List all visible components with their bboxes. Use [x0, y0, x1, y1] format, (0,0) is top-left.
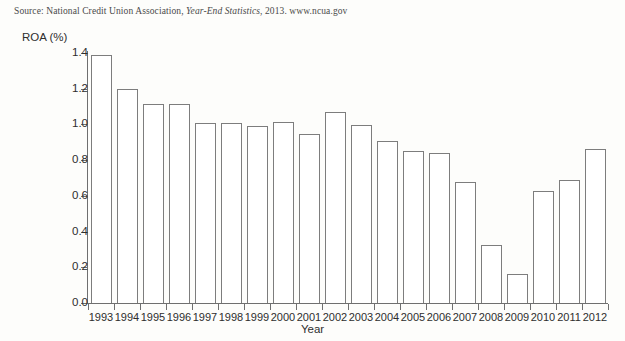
- bar: [221, 123, 242, 303]
- x-axis-title: Year: [0, 323, 625, 335]
- x-tick-mark: [114, 304, 115, 310]
- x-tick-mark: [556, 304, 557, 310]
- bar: [169, 104, 190, 303]
- x-tick-mark: [478, 304, 479, 310]
- y-tick-label: 0.8: [26, 153, 88, 165]
- x-tick-mark: [374, 304, 375, 310]
- y-tick-label: 1.0: [26, 117, 88, 129]
- x-tick-mark: [608, 304, 609, 310]
- x-tick-mark: [530, 304, 531, 310]
- x-tick-mark: [270, 304, 271, 310]
- x-tick-label: 2012: [575, 311, 615, 323]
- bar: [117, 89, 138, 303]
- bar: [481, 245, 502, 303]
- bar: [403, 151, 424, 303]
- bar: [351, 125, 372, 303]
- x-tick-mark: [166, 304, 167, 310]
- bar: [533, 191, 554, 304]
- bar: [377, 141, 398, 303]
- bar: [325, 112, 346, 303]
- x-tick-mark: [400, 304, 401, 310]
- bar: [507, 274, 528, 303]
- x-tick-mark: [452, 304, 453, 310]
- y-tick-label: 0.0: [26, 296, 88, 308]
- bar: [273, 122, 294, 303]
- x-tick-mark: [244, 304, 245, 310]
- bar: [91, 55, 112, 303]
- bar: [429, 153, 450, 303]
- bar: [455, 182, 476, 303]
- x-tick-mark: [582, 304, 583, 310]
- bar: [143, 104, 164, 303]
- x-tick-mark: [504, 304, 505, 310]
- bar: [195, 123, 216, 303]
- bar: [247, 126, 268, 303]
- y-tick-label: 0.6: [26, 189, 88, 201]
- x-tick-mark: [192, 304, 193, 310]
- plot-area: [88, 53, 608, 303]
- x-tick-mark: [140, 304, 141, 310]
- x-tick-mark: [348, 304, 349, 310]
- y-tick-label: 0.4: [26, 225, 88, 237]
- x-tick-mark: [88, 304, 89, 310]
- x-tick-mark: [322, 304, 323, 310]
- x-tick-mark: [218, 304, 219, 310]
- y-axis-title: ROA (%): [22, 31, 67, 43]
- x-tick-mark: [426, 304, 427, 310]
- bar: [585, 149, 606, 303]
- y-tick-label: 1.2: [26, 82, 88, 94]
- roa-bar-chart: ROA (%) 0.00.20.40.60.81.01.21.4 1993199…: [0, 0, 625, 341]
- y-tick-label: 0.2: [26, 260, 88, 272]
- bar: [559, 180, 580, 303]
- x-tick-mark: [296, 304, 297, 310]
- y-tick-label: 1.4: [26, 46, 88, 58]
- bar: [299, 134, 320, 303]
